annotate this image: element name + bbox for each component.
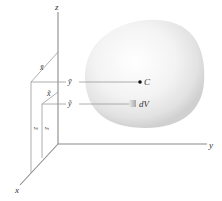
dv-element [129,100,136,107]
y-bar-label: ȳ [67,77,72,86]
volume-body [85,20,204,128]
centroid-dot [138,80,142,84]
y-tilde-label: ỹ [67,99,72,108]
x-tilde-label: x̃ [46,89,52,98]
x-axis [20,144,58,185]
x-axis-label: x [14,185,19,195]
y-axis-label: y [208,140,213,150]
z-axis-label: z [54,2,59,12]
z-bar-label: z̄ [32,126,40,130]
dv-label: dV [139,99,151,109]
centroid-label: C [144,77,151,87]
centroid-diagram: z y x C dV x̄ ȳ x̃ ỹ z̄ z̃ [0,0,222,201]
x-bar-label: x̄ [39,63,44,72]
z-tilde-label: z̃ [43,126,51,130]
